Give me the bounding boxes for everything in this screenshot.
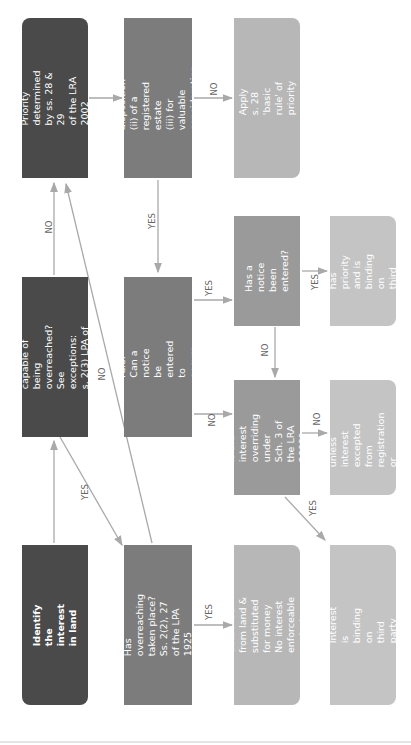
node-apply-s29: Apply s. 29 priority rule: Can a notice …	[124, 277, 192, 437]
edge-label-no: NO	[44, 220, 54, 233]
edge-label-no: NO	[207, 413, 217, 426]
edge-label-yes: YES	[310, 274, 320, 290]
node-interest-detached: Interest detached from land & substitute…	[234, 545, 300, 705]
node-priority-lra: Priority determined by ss. 28 & 29 of th…	[22, 18, 88, 178]
edge-label-yes: YES	[204, 604, 214, 620]
node-text: Interest has priority and is binding on …	[330, 253, 396, 290]
node-text: Apply s. 29 priority rule: Can a notice …	[124, 336, 192, 377]
node-text: Interest detached from land & substitute…	[234, 597, 300, 653]
node-text: Apply s. 28 'basic rule' of priority	[237, 81, 297, 115]
page-edge	[0, 741, 411, 743]
node-text: Interest is binding on third party	[330, 607, 396, 644]
node-text: Is the interest overriding under Sch. 3 …	[234, 413, 300, 461]
node-text: Has a notice been entered?	[243, 250, 291, 292]
edge-label-no: NO	[97, 367, 107, 380]
node-has-priority: Interest has priority and is binding on …	[330, 216, 396, 326]
node-binding: Interest is binding on third party	[330, 545, 396, 705]
edge-label-no: NO	[260, 343, 270, 356]
node-text: Interest is not binding on third party u…	[330, 408, 396, 467]
node-text: Does s. 29 apply? Is there: (i) a regist…	[124, 66, 192, 130]
node-text: Is the interest capable of being overrea…	[22, 325, 88, 390]
node-text: Priority determined by ss. 28 & 29 of th…	[22, 71, 88, 126]
node-apply-s28: Apply s. 28 'basic rule' of priority	[234, 18, 300, 178]
node-capable-overreached: Is the interest capable of being overrea…	[22, 277, 88, 437]
node-not-binding: Interest is not binding on third party u…	[330, 380, 396, 495]
node-notice-entered: Has a notice been entered?	[234, 216, 300, 326]
edge-label-no: NO	[312, 412, 322, 425]
edge-label-yes: YES	[308, 500, 318, 516]
edge-label-yes: YES	[204, 280, 214, 296]
node-does-s29-apply: Does s. 29 apply? Is there: (i) a regist…	[124, 18, 192, 178]
edge-label-yes: YES	[80, 484, 90, 500]
node-text: Has overreaching taken place? Ss. 2(2), …	[124, 594, 192, 656]
node-overriding: Is the interest overriding under Sch. 3 …	[234, 380, 300, 495]
node-identify-interest: Identify the interest in land	[22, 545, 88, 705]
edge-label-no: NO	[209, 82, 219, 95]
node-text: Identify the interest in land	[31, 604, 79, 646]
node-has-overreaching: Has overreaching taken place? Ss. 2(2), …	[124, 545, 192, 705]
edge-label-yes: YES	[147, 213, 157, 229]
